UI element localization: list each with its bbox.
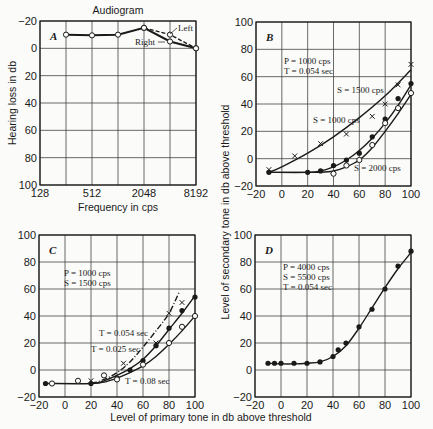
panel-d-condition-s: S = 5500 cps — [283, 272, 330, 282]
y-tick-label: 0 — [31, 42, 37, 54]
y-tick-label: 100 — [235, 16, 253, 28]
panel-d-condition-p: P = 4000 cps — [283, 262, 330, 272]
legend-right-label: Right — [135, 37, 156, 47]
x-tick-label: 100 — [402, 188, 420, 200]
panel-c-t08-label: T = 0.08 sec — [125, 376, 169, 386]
data-point — [370, 114, 375, 119]
x-tick-label: 60 — [353, 399, 365, 411]
x-tick-label: 8192 — [184, 187, 208, 199]
data-point — [344, 157, 349, 162]
x-tick-label: 2048 — [132, 187, 156, 199]
x-tick-label: 20 — [301, 399, 313, 411]
y-tick-label: 60 — [25, 124, 37, 136]
data-point — [75, 378, 80, 383]
data-point — [63, 32, 68, 37]
panel-b-s1500-label: S = 1500 cps — [337, 85, 384, 95]
data-point — [167, 39, 172, 44]
data-point — [356, 324, 361, 329]
data-point — [89, 33, 94, 38]
y-tick-label: 60 — [24, 283, 36, 295]
y-tick-label: 40 — [240, 310, 252, 322]
x-tick-label: 20 — [302, 188, 314, 200]
data-point — [266, 170, 271, 175]
audiogram-ylabel: Hearing loss in db — [6, 61, 18, 145]
y-tick-label: 0 — [30, 364, 36, 376]
data-point — [344, 132, 349, 137]
data-point — [291, 361, 296, 366]
x-tick-label: 40 — [111, 399, 123, 411]
data-point — [408, 81, 413, 86]
audiogram-xlabel: Frequency in cps — [78, 201, 158, 213]
x-tick-label: 60 — [137, 399, 149, 411]
y-tick-label: 80 — [240, 256, 252, 268]
panel-letter: C — [49, 244, 57, 256]
x-tick-label: 0 — [279, 188, 285, 200]
panel-c-condition-p: P = 1000 cps — [64, 268, 111, 278]
y-tick-label: 0 — [246, 364, 252, 376]
data-point — [331, 163, 336, 168]
y-tick-label: −20 — [18, 15, 37, 27]
data-point — [88, 381, 93, 386]
y-tick-label: 80 — [25, 152, 37, 164]
data-point — [395, 96, 400, 101]
data-point — [101, 373, 106, 378]
panel-c-t025-label: T = 0.025 sec — [91, 344, 140, 354]
data-point — [357, 151, 362, 156]
data-point — [318, 168, 323, 173]
y-tick-label: −20 — [17, 391, 36, 403]
data-point — [330, 354, 335, 359]
data-point — [265, 361, 270, 366]
panel-d-condition-t: T = 0.054 sec — [283, 282, 332, 292]
data-point — [180, 300, 185, 305]
x-tick-label: 40 — [327, 399, 339, 411]
y-tick-label: 100 — [19, 179, 37, 191]
y-tick-label: −20 — [234, 180, 253, 192]
fit-curve — [269, 85, 411, 173]
data-point — [278, 361, 283, 366]
data-point — [317, 359, 322, 364]
data-point — [114, 377, 119, 382]
data-point — [383, 121, 388, 126]
panel-letter: D — [264, 244, 273, 256]
panel-letter: A — [49, 30, 57, 42]
x-tick-label: 20 — [85, 399, 97, 411]
panel-b-s1000-label: S = 1000 cps — [313, 115, 360, 125]
data-point — [369, 307, 374, 312]
data-point — [292, 154, 297, 159]
x-tick-label: 100 — [402, 399, 420, 411]
panel-b-condition-p: P = 1000 cps — [284, 56, 331, 66]
x-tick-label: 40 — [327, 188, 339, 200]
data-point — [343, 340, 348, 345]
y-tick-label: 40 — [24, 310, 36, 322]
data-point — [140, 362, 145, 367]
data-point — [192, 295, 197, 300]
x-tick-label: 100 — [186, 399, 204, 411]
chart-panel-d: −20020406080100−20020406080100D — [233, 229, 420, 411]
data-point — [179, 324, 184, 329]
panel-c-condition-s: S = 1500 cps — [64, 278, 111, 288]
fit-curve — [269, 94, 411, 172]
panel-b-s2000-label: S = 2000 cps — [354, 163, 401, 173]
panel-letter: B — [265, 31, 273, 43]
data-point — [166, 326, 171, 331]
data-point — [336, 347, 341, 352]
y-tick-label: 20 — [25, 70, 37, 82]
data-point — [395, 263, 400, 268]
y-tick-label: 100 — [234, 229, 252, 241]
x-tick-label: 80 — [163, 399, 175, 411]
data-point — [305, 170, 310, 175]
y-tick-label: −20 — [233, 391, 252, 403]
data-point — [115, 32, 120, 37]
data-point — [153, 343, 158, 348]
data-point — [127, 367, 132, 372]
data-point — [141, 25, 146, 30]
y-tick-label: 40 — [241, 98, 253, 110]
data-point — [357, 157, 362, 162]
audiogram-title: Audiogram — [93, 4, 144, 16]
data-point — [370, 134, 375, 139]
data-point — [344, 163, 349, 168]
audiogram-panel-a: 12851220488192−20020406080100A — [18, 15, 208, 199]
x-tick-label: 80 — [379, 399, 391, 411]
y-tick-label: 80 — [241, 43, 253, 55]
x-tick-label: 60 — [353, 188, 365, 200]
